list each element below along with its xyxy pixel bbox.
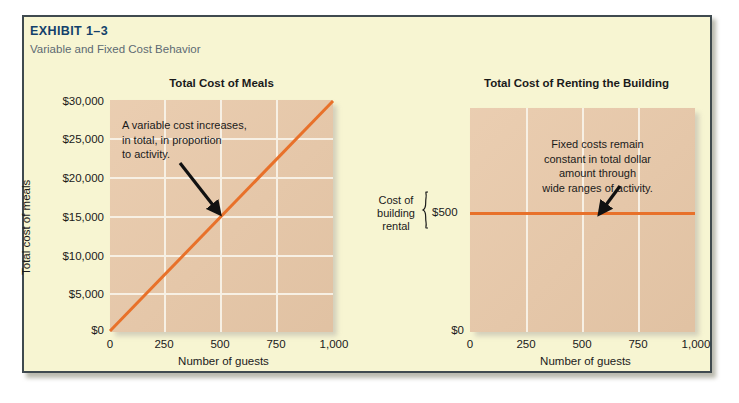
exhibit-title: EXHIBIT 1–3 xyxy=(30,24,108,38)
right-xaxis-label: Number of guests xyxy=(473,355,698,367)
left-ytick-5000: $5,000 xyxy=(24,288,104,300)
left-chart-title: Total Cost of Meals xyxy=(110,77,333,89)
right-fixed-cost-line xyxy=(470,212,695,215)
right-xtick-250: 250 xyxy=(508,338,544,350)
left-xtick-1000: 1,000 xyxy=(314,338,354,350)
right-brace-label-line-1: Cost of xyxy=(370,194,422,207)
left-annotation-line-3: to activity. xyxy=(122,147,272,162)
right-annotation-line-4: wide ranges of activity. xyxy=(505,181,690,196)
left-ytick-30000: $30,000 xyxy=(24,95,104,107)
right-xtick-0: 0 xyxy=(452,338,488,350)
left-gridline-20000 xyxy=(110,177,333,179)
left-gridline-10000 xyxy=(110,255,333,257)
exhibit-subtitle: Variable and Fixed Cost Behavior xyxy=(30,43,200,55)
left-ytick-0: $0 xyxy=(24,324,104,336)
left-annotation-line-2: in total, in proportion xyxy=(122,133,272,148)
right-ytick-500: $500 xyxy=(432,206,458,218)
right-xtick-500: 500 xyxy=(564,338,600,350)
left-ytick-20000: $20,000 xyxy=(24,172,104,184)
right-ytick-0: $0 xyxy=(404,324,464,336)
left-xaxis-label: Number of guests xyxy=(112,355,335,367)
left-annotation-line-1: A variable cost increases, xyxy=(122,118,272,133)
right-annotation-line-1: Fixed costs remain xyxy=(505,137,690,152)
left-gridline-5000 xyxy=(110,293,333,295)
left-xtick-500: 500 xyxy=(202,338,238,350)
right-annotation-line-2: constant in total dollar xyxy=(505,152,690,167)
left-gridline-15000 xyxy=(110,216,333,218)
right-brace-label-line-2: building xyxy=(370,207,422,220)
right-xtick-750: 750 xyxy=(620,338,656,350)
left-xtick-0: 0 xyxy=(92,338,128,350)
right-brace-label-line-3: rental xyxy=(370,220,422,233)
left-yaxis-label: Total cost of meals xyxy=(20,180,32,275)
left-xtick-250: 250 xyxy=(146,338,182,350)
right-chart-annotation: Fixed costs remain constant in total dol… xyxy=(505,137,690,195)
right-chart-title: Total Cost of Renting the Building xyxy=(455,77,698,89)
right-annotation-line-3: amount through xyxy=(505,166,690,181)
left-xtick-750: 750 xyxy=(258,338,294,350)
left-ytick-15000: $15,000 xyxy=(24,211,104,223)
left-chart-annotation: A variable cost increases, in total, in … xyxy=(122,118,272,162)
left-ytick-10000: $10,000 xyxy=(24,250,104,262)
exhibit-page: EXHIBIT 1–3 Variable and Fixed Cost Beha… xyxy=(0,0,739,403)
right-xtick-1000: 1,000 xyxy=(676,338,716,350)
right-brace-label: Cost of building rental xyxy=(370,194,422,233)
left-ytick-25000: $25,000 xyxy=(24,133,104,145)
